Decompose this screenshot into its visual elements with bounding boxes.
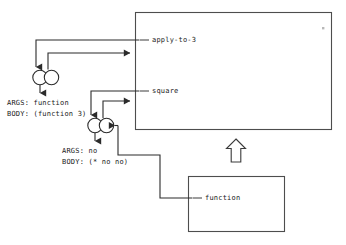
link-apply-to-3-env-pointer [48,53,130,70]
link-square-binding-to-procedure [91,91,140,115]
procedure-cdr-circle-square [99,118,113,132]
binding-label-square: square [152,87,179,95]
diagram-canvas: apply-to-3 square function ARGS: functio… [0,0,346,245]
procedure-body-square: BODY: (* no no) [62,158,128,166]
enclosing-environment-up-arrow [227,139,246,162]
procedure-args-square: ARGS: no [62,147,97,155]
global-environment-box [136,13,332,130]
diagram-svg: apply-to-3 square function ARGS: functio… [0,0,346,245]
procedure-args-apply-to-3: ARGS: function [7,99,69,107]
procedure-body-apply-to-3: BODY: (function 3) [7,110,86,118]
link-function-binding-to-square-procedure-segment [118,126,193,199]
link-square-env-pointer [103,101,130,118]
binding-label-function: function [205,194,240,202]
binding-label-apply-to-3: apply-to-3 [152,36,196,44]
procedure-cdr-circle-apply-to-3 [44,70,58,84]
function-environment-box [189,177,285,232]
artifact-speck [322,27,324,29]
